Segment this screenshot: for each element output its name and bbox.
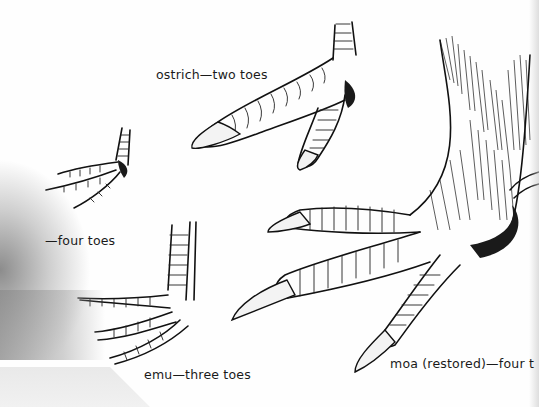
caption-ostrich: ostrich—two toes — [156, 67, 268, 82]
page-edge-shadow — [529, 0, 539, 407]
caption-emu: emu—three toes — [144, 367, 251, 382]
four-toed-foot-drawing — [46, 128, 130, 208]
caption-four-toes: —four toes — [45, 233, 115, 248]
page-curl-shadow-band — [0, 290, 105, 360]
ostrich-foot-drawing — [192, 22, 356, 170]
caption-moa: moa (restored)—four t — [390, 356, 534, 371]
moa-foot-drawing — [232, 36, 539, 372]
